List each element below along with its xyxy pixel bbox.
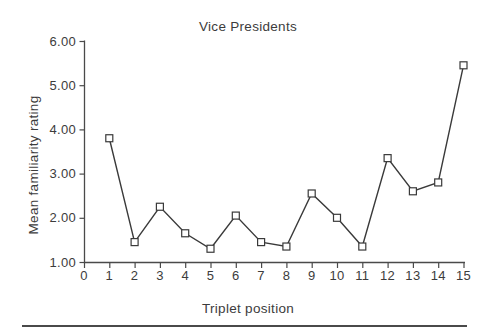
x-tick-label: 0 (80, 268, 88, 283)
x-tick-label: 10 (329, 268, 344, 283)
x-tick-label: 14 (431, 268, 446, 283)
x-tick-label: 7 (257, 268, 265, 283)
x-tick-label: 9 (308, 268, 316, 283)
x-tick-label: 13 (405, 268, 420, 283)
x-tick-label: 5 (207, 268, 215, 283)
data-point-marker (283, 243, 290, 250)
data-point-marker (182, 230, 189, 237)
y-tick-label: 6.00 (49, 34, 76, 49)
bottom-rule (22, 325, 467, 327)
x-tick-label: 6 (232, 268, 240, 283)
axes-lines (85, 41, 466, 263)
data-point-marker (232, 212, 239, 219)
chart-figure: Vice Presidents Mean familiarity rating … (0, 0, 496, 331)
y-tick-label: 1.00 (49, 255, 76, 270)
data-point-marker (359, 243, 366, 250)
data-line (109, 65, 463, 248)
x-tick-label: 3 (156, 268, 164, 283)
data-point-marker (460, 62, 467, 69)
y-tick-label: 5.00 (49, 78, 76, 93)
x-axis-label: Triplet position (0, 301, 496, 316)
data-point-marker (308, 190, 315, 197)
x-tick-label: 1 (106, 268, 114, 283)
y-tick-label: 3.00 (49, 166, 76, 181)
data-point-marker (207, 245, 214, 252)
x-tick-label: 8 (283, 268, 291, 283)
data-point-marker (384, 155, 391, 162)
data-point-marker (106, 135, 113, 142)
line-chart: 1.002.003.004.005.006.000123456789101112… (0, 0, 496, 331)
x-tick-label: 15 (456, 268, 471, 283)
data-point-marker (258, 239, 265, 246)
data-point-marker (156, 203, 163, 210)
x-tick-label: 11 (355, 268, 369, 283)
x-tick-label: 2 (131, 268, 139, 283)
data-point-marker (435, 179, 442, 186)
x-tick-label: 4 (181, 268, 189, 283)
data-point-marker (131, 239, 138, 246)
x-tick-label: 12 (380, 268, 395, 283)
data-point-marker (334, 214, 341, 221)
data-point-marker (409, 188, 416, 195)
y-tick-label: 4.00 (49, 122, 76, 137)
y-tick-label: 2.00 (49, 210, 76, 225)
